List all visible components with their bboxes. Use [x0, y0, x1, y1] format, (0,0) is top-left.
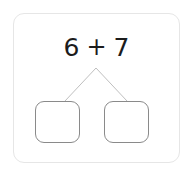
answer-box-left[interactable] [35, 101, 80, 143]
worksheet-root: 6 + 7 [0, 0, 193, 175]
answer-box-right[interactable] [104, 101, 149, 143]
